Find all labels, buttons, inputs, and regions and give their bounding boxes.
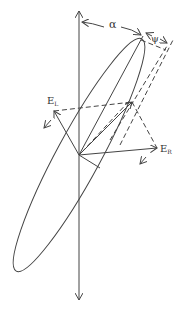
- e-left-label: EL: [47, 95, 58, 107]
- dashed-psi-line-2: [120, 40, 173, 145]
- alpha-label: α: [109, 18, 117, 31]
- alpha-arc-right: [121, 27, 141, 35]
- polarization-diagram: α ψ EL ER: [0, 0, 185, 309]
- rotation-arrow-left: [44, 120, 51, 128]
- dashed-el-to-resultant: [54, 102, 132, 111]
- dashed-psi-line-1: [110, 46, 167, 140]
- psi-label: ψ: [151, 33, 159, 44]
- e-right-label: ER: [160, 143, 172, 155]
- alpha-arc-left: [82, 22, 104, 27]
- rotation-arrow-right: [140, 157, 146, 164]
- psi-arrow-right: [160, 39, 167, 43]
- dashed-resultant-double: [82, 100, 130, 152]
- dashed-resultant-to-er: [132, 102, 157, 148]
- e-right-vector: [79, 148, 157, 155]
- resultant-vector: [79, 102, 132, 155]
- minor-axis-line: [79, 155, 100, 168]
